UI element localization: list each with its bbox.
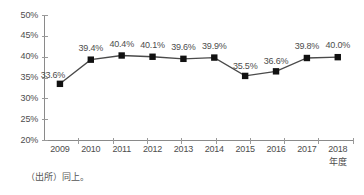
y-axis-tick-label: 50% <box>8 10 38 20</box>
x-axis-tick-label: 2009 <box>43 144 77 154</box>
y-axis-tick-label: 40% <box>8 51 38 61</box>
x-axis-tick-label: 2010 <box>74 144 108 154</box>
y-axis-tick-label: 45% <box>8 30 38 40</box>
y-axis-tick-label: 30% <box>8 93 38 103</box>
x-axis-tick-label: 2018 <box>321 144 355 154</box>
data-point-marker <box>273 68 279 74</box>
x-axis-tick-label: 2017 <box>290 144 324 154</box>
chart-plot-svg <box>0 0 364 168</box>
data-point-value-label: 39.9% <box>195 41 233 51</box>
data-point-marker <box>149 54 155 60</box>
x-axis-tick-label: 2016 <box>259 144 293 154</box>
x-axis-tick-label: 2015 <box>228 144 262 154</box>
x-axis-tick-label: 2011 <box>105 144 139 154</box>
data-point-marker <box>57 81 63 87</box>
series-line-path <box>60 56 338 84</box>
line-chart: 50%45%40%35%30%25%20% 200920102011201220… <box>0 0 364 168</box>
data-point-marker <box>118 52 124 58</box>
x-axis-tick-label: 2013 <box>166 144 200 154</box>
y-axis-tick-label: 25% <box>8 114 38 124</box>
y-axis-tick-label: 20% <box>8 135 38 145</box>
figure-container: 50%45%40%35%30%25%20% 200920102011201220… <box>0 0 364 195</box>
x-axis-unit-label: 年度 <box>321 155 355 168</box>
data-point-value-label: 36.6% <box>257 56 295 66</box>
data-point-value-label: 40.0% <box>319 40 357 50</box>
x-axis-tick-label: 2014 <box>197 144 231 154</box>
data-point-marker <box>304 55 310 61</box>
data-point-marker <box>242 73 248 79</box>
data-point-marker <box>211 54 217 60</box>
series-markers <box>57 52 341 87</box>
data-point-value-label: 33.6% <box>34 70 72 80</box>
data-point-marker <box>180 56 186 62</box>
x-axis-tick-label: 2012 <box>136 144 170 154</box>
data-point-marker <box>335 54 341 60</box>
source-note: （出所）同上。 <box>26 170 89 183</box>
data-point-marker <box>88 56 94 62</box>
